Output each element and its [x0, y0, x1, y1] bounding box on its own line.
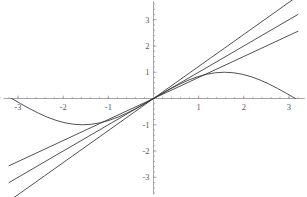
x-tick-label: -2: [60, 102, 67, 112]
x-tick-label: 2: [242, 102, 246, 112]
x-tick-label: -1: [105, 102, 112, 112]
y-tick-label: 3: [145, 15, 149, 25]
y-tick-label: -3: [142, 172, 149, 182]
x-tick-label: 1: [197, 102, 201, 112]
plot-figure: -3-2-1123 321-1-2-3: [0, 0, 307, 197]
plot-canvas: -3-2-1123 321-1-2-3: [0, 0, 307, 197]
y-tick-label: -2: [142, 146, 149, 156]
x-axis-tick-labels: -3-2-1123: [15, 102, 292, 112]
x-tick-label: -3: [15, 102, 22, 112]
y-tick-label: 2: [145, 41, 149, 51]
y-tick-label: 1: [145, 67, 149, 77]
x-tick-label: 3: [287, 102, 291, 112]
y-tick-label: -1: [142, 120, 149, 130]
